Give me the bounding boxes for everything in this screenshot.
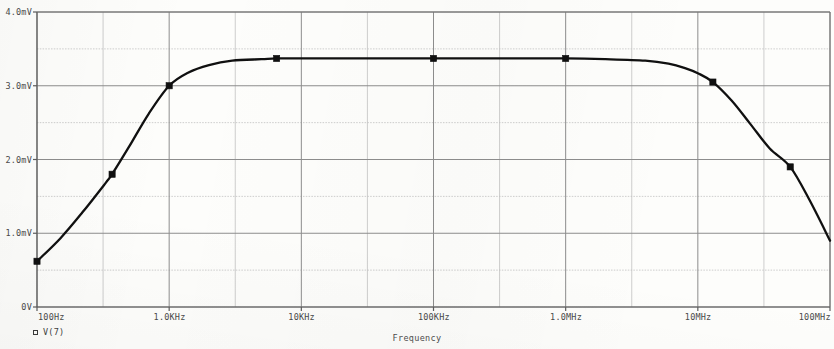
square-marker-icon [33,330,38,335]
x-axis-title: Frequency [0,333,834,343]
x-axis-tick-label: 10KHz [288,313,315,322]
y-axis-tick-label: 3.0mV [5,82,32,91]
data-point-marker [787,164,793,170]
x-axis-tick-label: 100MHz [799,313,831,322]
y-axis-tick-label: 0V [21,303,32,312]
pspice-probe-plot-window: Frequency V(7) 0V1.0mV2.0mV3.0mV4.0mV100… [0,0,834,349]
data-point-marker [710,79,716,85]
y-axis-tick-label: 2.0mV [5,156,32,165]
legend[interactable]: V(7) [33,327,64,337]
legend-trace-label[interactable]: V(7) [43,327,64,337]
x-axis-tick-label: 1.0MHz [550,313,582,322]
y-axis-tick-label: 4.0mV [5,8,32,17]
y-axis-tick-label: 1.0mV [5,229,32,238]
x-axis-tick-label: 100KHz [418,313,450,322]
x-axis-tick-label: 10MHz [685,313,712,322]
x-axis-tick-label: 1.0KHz [154,313,186,322]
data-point-marker [166,83,172,89]
x-axis-tick-label: 100Hz [38,313,65,322]
data-point-marker [274,55,280,61]
data-point-marker [430,55,436,61]
data-point-marker [109,171,115,177]
frequency-response-chart [0,0,834,349]
data-point-marker [34,258,40,264]
data-point-marker [563,55,569,61]
